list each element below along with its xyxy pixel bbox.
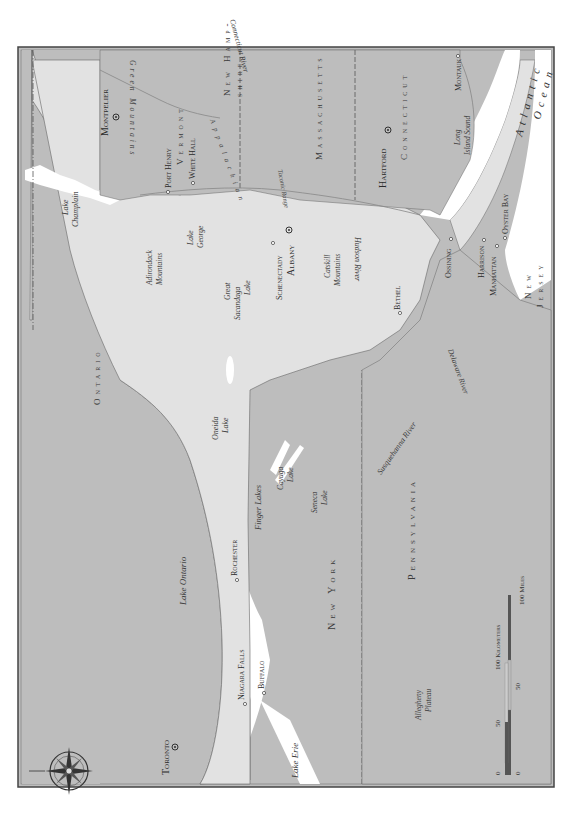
city-bethel: Bethel — [393, 285, 402, 314]
label-lake-erie: Lake Erie — [290, 743, 300, 779]
svg-text:Hartford: Hartford — [377, 149, 388, 188]
region-label-new-york: New York — [326, 556, 337, 630]
label-great-sacandaga-1: Great — [223, 282, 232, 300]
city-port-henry: Port Henry — [164, 147, 173, 193]
label-oneida-1: Oneida — [211, 416, 220, 440]
label-seneca-1: Seneca — [310, 492, 319, 513]
label-catskill-1: Catskill — [323, 255, 332, 278]
region-label-new-hampshire-1: New Hamp- — [222, 19, 232, 96]
map: Ontario New York Pennsylvania Vermont Ne… — [0, 0, 562, 840]
city-white-hall: White Hall — [188, 138, 197, 185]
label-cayuga-2: Lake — [286, 467, 295, 483]
region-label-pennsylvania: Pennsylvania — [406, 478, 417, 580]
label-green-mountains: Green Mountains — [128, 60, 137, 157]
label-great-sacandaga-3: Lake — [243, 280, 252, 296]
region-label-new-jersey-2: Jersey — [535, 261, 545, 308]
label-long-island-sound-2: Island Sound — [463, 115, 472, 156]
label-adirondack-2: Mountains — [155, 253, 164, 286]
label-lake-george-1: Lake — [186, 230, 195, 246]
svg-text:Buffalo: Buffalo — [257, 660, 266, 689]
city-oyster-bay: Oyster Bay — [501, 193, 510, 239]
label-allegheny-2: Plateau — [424, 688, 433, 713]
svg-text:Niagara Falls: Niagara Falls — [237, 649, 246, 700]
scale-km-0: 0 — [494, 771, 502, 775]
svg-text:Oyster Bay: Oyster Bay — [501, 193, 510, 234]
city-niagara-falls: Niagara Falls — [237, 649, 247, 705]
region-label-ontario: Ontario — [92, 348, 102, 405]
label-adirondack-1: Adirondack — [145, 250, 154, 286]
svg-text:Harrison: Harrison — [477, 245, 486, 278]
oneida-lake — [226, 356, 234, 384]
label-finger-lakes: Finger Lakes — [253, 484, 263, 531]
city-montauk: Montauk — [454, 54, 463, 91]
svg-text:White Hall: White Hall — [188, 138, 197, 179]
city-buffalo: Buffalo — [257, 660, 266, 694]
scale-miles-label: 100 Miles — [518, 576, 526, 605]
label-lake-ontario: Lake Ontario — [178, 556, 188, 606]
svg-text:Bethel: Bethel — [393, 285, 402, 310]
region-label-vermont: Vermont — [175, 105, 185, 165]
label-lake-champlain-1: Lake — [61, 199, 70, 216]
label-oneida-2: Lake — [221, 417, 230, 434]
scale-km-label: 100 Kilometers — [494, 624, 502, 670]
svg-text:Toronto: Toronto — [160, 740, 171, 775]
svg-text:Montauk: Montauk — [454, 58, 463, 91]
svg-text:Montpelier: Montpelier — [99, 89, 110, 136]
svg-text:Albany: Albany — [285, 245, 296, 276]
svg-text:Manhattan: Manhattan — [489, 256, 498, 296]
label-allegheny-1: Allegheny — [414, 689, 423, 721]
label-great-sacandaga-2: Sacandaga — [233, 286, 242, 320]
svg-text:Rochester: Rochester — [230, 540, 239, 576]
label-seneca-2: Lake — [320, 490, 329, 506]
region-label-massachusetts: Massachusetts — [314, 54, 324, 160]
region-label-connecticut: Connecticut — [399, 72, 409, 160]
label-catskill-2: Mountains — [333, 254, 342, 287]
label-cayuga-1: Cayuga — [276, 466, 285, 490]
label-hudson-river: Hudson River — [353, 236, 362, 282]
label-lake-champlain-2: Champlain — [71, 191, 80, 227]
region-label-new-jersey-1: New — [523, 271, 533, 299]
svg-text:Ossining: Ossining — [444, 248, 453, 278]
scale-miles-50: 50 — [514, 683, 522, 691]
svg-text:Schenectady: Schenectady — [275, 255, 284, 300]
label-long-island-sound-1: Long — [453, 129, 462, 146]
svg-text:Port Henry: Port Henry — [164, 147, 173, 188]
city-rochester: Rochester — [230, 540, 239, 582]
scale-km-50: 50 — [494, 720, 502, 728]
scale-miles-0: 0 — [514, 771, 522, 775]
label-lake-george-2: George — [196, 225, 205, 248]
